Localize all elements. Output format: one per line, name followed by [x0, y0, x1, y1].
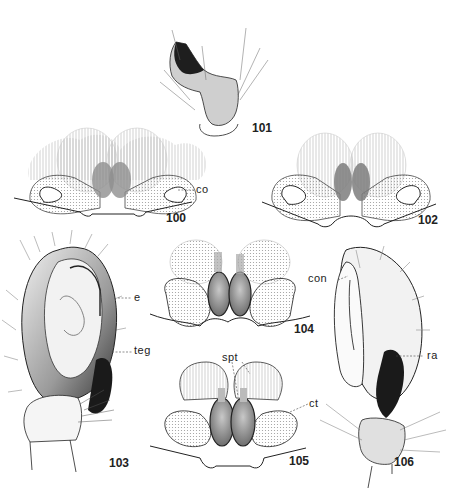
figure-104-drawing	[150, 240, 310, 326]
figure-100-drawing	[14, 128, 206, 216]
figure-number-100: 100	[166, 211, 186, 225]
label-co: co	[196, 183, 209, 195]
figure-101-drawing	[160, 28, 268, 136]
figure-number-106: 106	[394, 455, 414, 469]
figure-106-drawing	[320, 246, 446, 488]
label-con: con	[308, 272, 327, 284]
figure-plate: 101 100 102 103 104 105 106 co e teg con…	[0, 0, 458, 488]
figure-105-drawing	[150, 362, 308, 468]
figure-number-104: 104	[294, 322, 314, 336]
label-ra: ra	[427, 349, 438, 361]
label-teg: teg	[134, 344, 151, 356]
figure-103-drawing	[2, 230, 132, 472]
figure-number-101: 101	[252, 121, 272, 135]
figure-102-drawing	[262, 133, 436, 227]
label-ct: ct	[309, 397, 319, 409]
label-e: e	[134, 291, 141, 303]
illustrations	[0, 0, 458, 488]
figure-number-105: 105	[289, 454, 309, 468]
label-spt: spt	[222, 351, 238, 363]
figure-number-102: 102	[418, 213, 438, 227]
figure-number-103: 103	[109, 456, 129, 470]
